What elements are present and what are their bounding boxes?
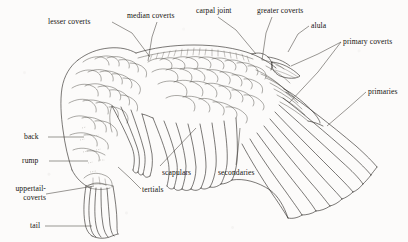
tail-feathers <box>84 184 118 239</box>
label-primaries: primaries <box>368 87 398 96</box>
bird-topography-figure: lesser coverts median coverts carpal joi… <box>0 0 408 242</box>
label-secondaries: secondaries <box>218 168 255 177</box>
label-carpal-joint: carpal joint <box>196 6 232 15</box>
alula-feather-group <box>266 62 300 83</box>
leader-greater-coverts <box>262 17 272 60</box>
leader-primaries <box>327 92 366 126</box>
leader-carpal-joint <box>218 17 256 54</box>
label-primary-coverts: primary coverts <box>343 37 392 46</box>
label-tail: tail <box>30 221 40 230</box>
scapular-feather-scales <box>68 56 147 161</box>
tertials-tract <box>110 106 153 177</box>
leader-primary-coverts-b <box>289 42 341 103</box>
body-outline <box>61 48 136 190</box>
greater-coverts-tract <box>158 80 264 123</box>
label-tertials: tertials <box>142 185 163 194</box>
leader-alula <box>288 26 309 52</box>
leader-uppertail-coverts <box>46 186 94 194</box>
primaries-tract <box>242 92 377 218</box>
leader-tertials <box>118 167 141 189</box>
label-scapulars: scapulars <box>162 168 191 177</box>
label-lesser-coverts: lesser coverts <box>48 17 91 26</box>
label-median-coverts: median coverts <box>127 11 175 20</box>
label-rump: rump <box>22 156 38 165</box>
leader-scapulars <box>160 128 196 166</box>
label-alula: alula <box>311 21 326 30</box>
median-coverts-tract <box>148 57 266 93</box>
label-uppertail-coverts: uppertail-coverts <box>2 184 46 202</box>
label-back: back <box>24 132 39 141</box>
leader-lesser-coverts <box>112 22 150 57</box>
label-greater-coverts: greater coverts <box>257 6 303 15</box>
leader-primary-coverts-a <box>291 42 341 66</box>
carpal-joint-bend <box>252 53 290 70</box>
rump-texture <box>80 127 105 172</box>
